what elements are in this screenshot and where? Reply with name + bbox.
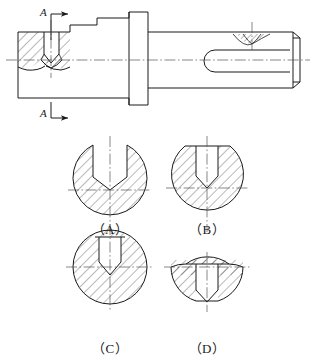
option-a-label: （A） (82, 219, 138, 238)
option-a-figure (68, 136, 152, 232)
conical-dimple (233, 34, 270, 45)
keyway-slot (204, 50, 290, 72)
section-label-a-top: A (39, 6, 47, 18)
option-c-label: （C） (82, 338, 138, 357)
section-label-a-bottom: A (39, 107, 47, 119)
flange-collar (129, 12, 148, 105)
option-b-figure (166, 136, 249, 232)
main-longitudinal-view: A A (6, 6, 310, 119)
drawing-sheet: A A (0, 0, 314, 364)
section-mark-a-bottom: A (39, 102, 68, 119)
technical-drawing-canvas: A A (0, 0, 314, 364)
option-b-label: （B） (179, 219, 235, 238)
option-d-label: （D） (179, 338, 235, 357)
